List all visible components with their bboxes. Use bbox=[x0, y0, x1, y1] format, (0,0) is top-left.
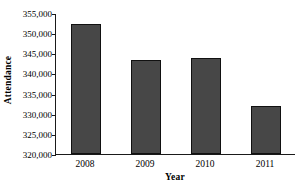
y-tick-label: 320,000 bbox=[14, 151, 52, 160]
y-axis-title-label: Attendance bbox=[3, 56, 13, 104]
bar-slot bbox=[131, 14, 161, 154]
bars-layer bbox=[56, 14, 295, 154]
y-tick-label: 325,000 bbox=[14, 130, 52, 139]
y-tick-label: 355,000 bbox=[14, 10, 52, 19]
bar-slot bbox=[191, 14, 221, 154]
x-tick-label: 2011 bbox=[256, 158, 275, 170]
bar-2008 bbox=[71, 24, 101, 154]
y-tick-label: 350,000 bbox=[14, 30, 52, 39]
y-axis-tick-labels: 320,000325,000330,000335,000340,000345,0… bbox=[14, 14, 52, 155]
bar-slot bbox=[251, 14, 281, 154]
y-tick-label: 330,000 bbox=[14, 110, 52, 119]
x-tick-label: 2010 bbox=[196, 158, 215, 170]
bar-2010 bbox=[191, 58, 221, 154]
y-tick-mark bbox=[52, 155, 56, 156]
y-tick-label: 340,000 bbox=[14, 70, 52, 79]
plot-area bbox=[55, 14, 295, 155]
bar-2009 bbox=[131, 60, 161, 154]
x-axis-title: Year bbox=[55, 172, 295, 182]
y-tick-label: 345,000 bbox=[14, 50, 52, 59]
x-tick-label: 2009 bbox=[136, 158, 155, 170]
x-tick-label: 2008 bbox=[76, 158, 95, 170]
bar-2011 bbox=[251, 106, 281, 154]
y-tick-label: 335,000 bbox=[14, 90, 52, 99]
bar-slot bbox=[71, 14, 101, 154]
x-axis-tick-labels: 2008200920102011 bbox=[55, 158, 295, 172]
bar-chart-figure: Attendance 320,000325,000330,000335,0003… bbox=[0, 0, 303, 193]
